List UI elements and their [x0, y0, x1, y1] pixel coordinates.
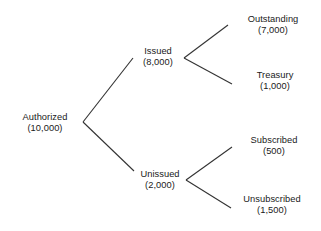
node-unissued-label: Unissued: [140, 169, 179, 180]
node-unissued-value: (2,000): [140, 180, 179, 191]
node-subscribed: Subscribed (500): [250, 135, 297, 157]
node-outstanding-value: (7,000): [248, 25, 299, 36]
node-unissued: Unissued (2,000): [140, 169, 179, 191]
node-treasury-label: Treasury: [257, 70, 294, 81]
node-treasury-value: (1,000): [257, 81, 294, 92]
edge-issued-treasury: [184, 58, 232, 84]
edge-unissued-unsubscribed: [186, 180, 231, 208]
node-authorized-label: Authorized: [23, 112, 68, 123]
node-issued-value: (8,000): [143, 57, 173, 68]
share-capital-tree-diagram: Authorized (10,000) Issued (8,000) Uniss…: [0, 0, 321, 231]
node-authorized-value: (10,000): [23, 123, 68, 134]
node-unsubscribed-value: (1,500): [243, 205, 300, 216]
node-treasury: Treasury (1,000): [257, 70, 294, 92]
node-unsubscribed: Unsubscribed (1,500): [243, 194, 300, 216]
edge-unissued-subscribed: [186, 147, 232, 180]
node-unsubscribed-label: Unsubscribed: [243, 194, 300, 205]
edge-issued-outstanding: [184, 25, 228, 58]
node-issued: Issued (8,000): [143, 46, 173, 68]
edge-authorized-unissued: [83, 122, 134, 171]
node-issued-label: Issued: [143, 46, 173, 57]
node-outstanding-label: Outstanding: [248, 14, 299, 25]
node-subscribed-label: Subscribed: [250, 135, 297, 146]
node-authorized: Authorized (10,000): [23, 112, 68, 134]
node-outstanding: Outstanding (7,000): [248, 14, 299, 36]
edge-authorized-issued: [83, 58, 133, 122]
node-subscribed-value: (500): [250, 146, 297, 157]
